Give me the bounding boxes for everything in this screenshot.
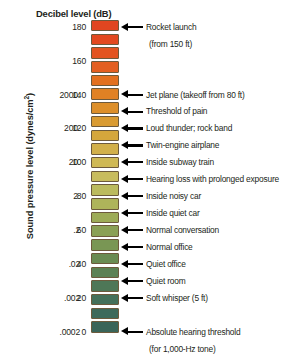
annotation-callout: Loud thunder; rock band <box>121 123 232 133</box>
decibel-color-bar <box>91 20 119 336</box>
color-bar-segment <box>91 157 119 168</box>
chart-title: Decibel level (dB) <box>36 8 156 19</box>
annotation-label: Quiet office <box>146 259 186 269</box>
annotation-label: Normal conversation <box>146 225 219 235</box>
color-bar-segment <box>91 130 119 141</box>
color-bar-segment <box>91 171 119 182</box>
color-bar-segment <box>91 198 119 209</box>
annotation-callout: Twin-engine airplane <box>121 140 219 150</box>
db-tick-label: 180 <box>54 22 86 32</box>
annotation-label: Quiet room <box>146 276 185 286</box>
color-bar-segment <box>91 20 119 31</box>
left-arrow-icon <box>121 327 143 336</box>
annotation-callout: Normal office <box>121 242 193 252</box>
left-arrow-icon <box>121 192 143 201</box>
annotation-callout: Absolute hearing threshold <box>121 327 240 337</box>
color-bar-segment <box>91 321 119 332</box>
left-arrow-icon <box>121 107 143 116</box>
pressure-tick-label: 2. <box>18 191 80 201</box>
color-bar-segment <box>91 280 119 291</box>
left-arrow-icon <box>121 22 143 31</box>
annotation-label: Hearing loss with prolonged exposure <box>146 174 279 184</box>
pressure-tick-label: .002 <box>18 293 80 303</box>
annotation-sublabel: (for 1,000-Hz tone) <box>149 344 216 354</box>
left-arrow-icon <box>121 226 143 235</box>
annotation-label: Inside noisy car <box>146 191 201 201</box>
annotation-label: Loud thunder; rock band <box>146 123 232 133</box>
annotation-sublabel: (from 150 ft) <box>149 39 192 49</box>
color-bar-segment <box>91 212 119 223</box>
annotation-label: Normal office <box>146 242 193 252</box>
pressure-tick-label: .2 <box>18 225 80 235</box>
annotation-callout: Jet plane (takeoff from 80 ft) <box>121 90 245 100</box>
annotation-label: Twin-engine airplane <box>146 140 219 150</box>
annotation-callout: Threshold of pain <box>121 106 207 116</box>
db-tick-label: 160 <box>54 56 86 66</box>
color-bar-segment <box>91 47 119 58</box>
color-bar-segment <box>91 308 119 319</box>
color-bar-segment <box>91 267 119 278</box>
color-bar-segment <box>91 102 119 113</box>
annotation-callout: Quiet room <box>121 276 185 286</box>
color-bar-segment <box>91 225 119 236</box>
decibel-scale-figure: Sound pressure level (dynes/cm2) Decibel… <box>0 0 290 356</box>
annotation-callout: Normal conversation <box>121 225 219 235</box>
annotation-label: Inside quiet car <box>146 208 200 218</box>
annotation-label: Inside subway train <box>146 157 214 167</box>
annotation-label: Jet plane (takeoff from 80 ft) <box>146 90 245 100</box>
left-arrow-icon <box>121 175 143 184</box>
annotation-label: Absolute hearing threshold <box>146 327 240 337</box>
color-bar-segment <box>91 116 119 127</box>
annotation-callout: Soft whisper (5 ft) <box>121 293 208 303</box>
annotation-label: Soft whisper (5 ft) <box>146 293 208 303</box>
annotation-label: Threshold of pain <box>146 106 207 116</box>
annotation-callout: Rocket launch <box>121 22 196 32</box>
color-bar-segment <box>91 88 119 99</box>
color-bar-segment <box>91 143 119 154</box>
left-arrow-icon <box>121 242 143 251</box>
annotation-callout: Inside quiet car <box>121 208 200 218</box>
color-bar-segment <box>91 75 119 86</box>
left-arrow-icon <box>121 259 143 268</box>
annotation-callout: Hearing loss with prolonged exposure <box>121 174 279 184</box>
annotation-callout: Inside noisy car <box>121 191 201 201</box>
pressure-tick-label: 200. <box>18 123 80 133</box>
color-bar-segment <box>91 184 119 195</box>
color-bar-segment <box>91 239 119 250</box>
color-bar-segment <box>91 61 119 72</box>
left-arrow-icon <box>121 124 143 133</box>
left-arrow-icon <box>121 276 143 285</box>
pressure-tick-label: 20. <box>18 157 80 167</box>
left-arrow-icon <box>121 158 143 167</box>
annotation-callout: Inside subway train <box>121 157 214 167</box>
pressure-tick-label: 2000. <box>18 90 80 100</box>
y-axis-title-text: Sound pressure level (dynes/cm <box>25 100 35 240</box>
left-arrow-icon <box>121 293 143 302</box>
annotation-callout: Quiet office <box>121 259 186 269</box>
color-bar-segment <box>91 34 119 45</box>
color-bar-segment <box>91 294 119 305</box>
pressure-tick-label: .02 <box>18 259 80 269</box>
pressure-tick-label: .0002 <box>18 327 80 337</box>
left-arrow-icon <box>121 209 143 218</box>
left-arrow-icon <box>121 141 143 150</box>
left-arrow-icon <box>121 90 143 99</box>
annotation-label: Rocket launch <box>146 22 196 32</box>
color-bar-segment <box>91 253 119 264</box>
